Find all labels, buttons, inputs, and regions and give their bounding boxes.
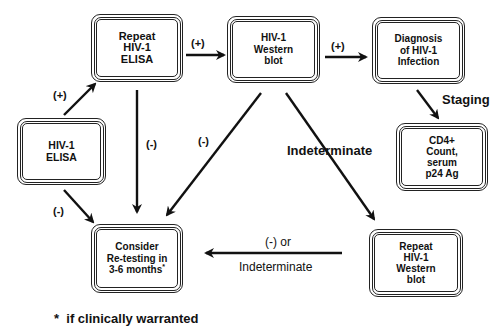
box-line: CD4+ — [429, 135, 455, 146]
label-repeat-to-retest: (-) — [146, 138, 157, 150]
arrow-diagnosis-to-cd4 — [417, 90, 438, 118]
box-line: blot — [264, 55, 282, 67]
box-line: Count, — [426, 146, 458, 157]
box-line: HIV-1 — [403, 252, 428, 263]
box-line: Re-testing in — [107, 253, 168, 265]
box-cd4-count: CD4+ Count, serum p24 Ag — [396, 123, 488, 191]
box-line: blot — [407, 274, 425, 285]
label-repeat-to-western: (+) — [191, 37, 205, 49]
footnote-mark: * — [162, 263, 165, 270]
label-elisa-to-retest: (-) — [53, 205, 64, 217]
box-line: Consider — [115, 241, 158, 253]
arrow-western-to-retest — [167, 93, 261, 215]
box-repeat-western-blot: Repeat HIV-1 Western blot — [369, 229, 463, 297]
box-line: Infection — [398, 56, 440, 68]
box-line: HIV-1 — [48, 140, 74, 152]
box-diagnosis: Diagnosis of HIV-1 Infection — [372, 17, 465, 84]
box-line: Diagnosis — [395, 33, 443, 45]
box-line: serum — [427, 157, 457, 168]
label-indeterminate-bottom: Indeterminate — [239, 260, 312, 274]
box-line: 3-6 months* — [109, 264, 165, 276]
box-line: Repeat — [399, 241, 432, 252]
box-line: Western — [254, 44, 293, 56]
box-line: of HIV-1 — [400, 45, 437, 57]
label-indeterminate: Indeterminate — [287, 143, 372, 158]
label-western-to-retest: (-) — [198, 135, 209, 147]
label-negative-or: (-) or — [265, 235, 291, 249]
box-line: ELISA — [46, 152, 77, 164]
label-western-to-diagnosis: (+) — [331, 40, 345, 52]
arrow-elisa-to-retest — [64, 190, 93, 222]
box-line: Western — [396, 263, 435, 274]
box-line: HIV-1 — [261, 32, 286, 44]
label-staging: Staging — [442, 92, 490, 107]
box-line-text: 3-6 months — [109, 264, 162, 275]
box-hiv-elisa: HIV-1 ELISA — [17, 118, 106, 185]
label-elisa-to-repeat: (+) — [53, 89, 67, 101]
box-line: p24 Ag — [426, 168, 459, 179]
arrow-elisa-to-repeat — [64, 84, 95, 115]
box-consider-retesting: Consider Re-testing in 3-6 months* — [91, 224, 183, 293]
box-western-blot: HIV-1 Western blot — [227, 16, 320, 83]
footnote: * if clinically warranted — [54, 311, 199, 326]
box-repeat-elisa: Repeat HIV-1 ELISA — [91, 14, 183, 82]
box-line: ELISA — [121, 54, 153, 66]
